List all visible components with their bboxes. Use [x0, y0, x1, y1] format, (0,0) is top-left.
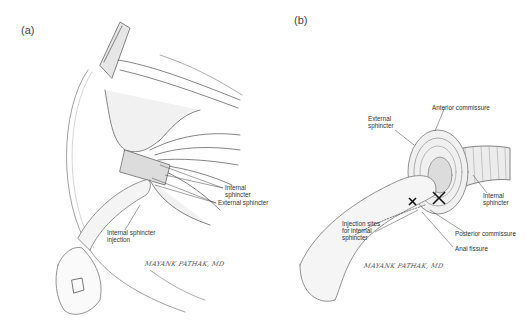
panel-a: (a) — [0, 0, 270, 325]
label-external-sphincter: External sphincter — [218, 199, 268, 206]
label-posterior-commissure: Posterior commissure — [455, 230, 516, 237]
anal-fissure-illustration-b — [270, 0, 529, 325]
artist-signature-b: MAYANK PATHAK, MD — [363, 262, 444, 270]
label-internal-sphincter: Internal sphincter — [225, 184, 270, 198]
label-anterior-commissure: Anterior commissure — [432, 104, 490, 111]
label-internal-sphincter-injection: Internal sphincter injection — [107, 229, 155, 243]
label-external-sphincter-b: External sphincter — [368, 115, 394, 129]
artist-signature-a: MAYANK PATHAK, MD — [144, 260, 225, 268]
sphincter-injection-illustration-a — [0, 0, 270, 325]
label-injection-sites: Injection sites for internal sphincter — [342, 220, 380, 242]
label-anal-fissure: Anal fissure — [455, 245, 488, 252]
label-internal-sphincter-b: Internal sphincter — [483, 192, 509, 206]
panel-b: (b) — [270, 0, 529, 325]
